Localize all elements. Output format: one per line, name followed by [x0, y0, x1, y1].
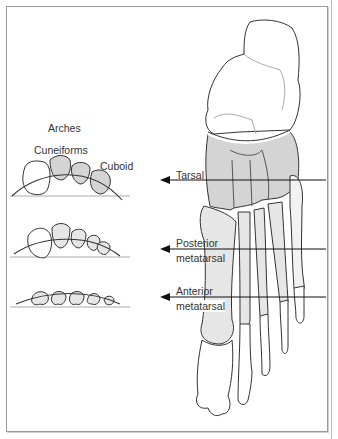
calcaneus-talus [206, 20, 300, 134]
tarsal-bones [206, 130, 299, 210]
posterior-metatarsal-label-line1: Posterior [176, 237, 218, 249]
anterior-metatarsal-arch [10, 292, 130, 308]
arrow-left-icon [160, 293, 170, 301]
arrow-left-icon [160, 245, 170, 253]
posterior-metatarsal-label-line2: metatarsal [176, 252, 225, 264]
cuboid-label: Cuboid [100, 160, 133, 172]
anterior-metatarsal-label-line2: metatarsal [176, 300, 225, 312]
anterior-metatarsal-label-line1: Anterior [176, 285, 213, 297]
arrow-heads [160, 176, 170, 301]
foot-skeleton-diagram [0, 0, 338, 439]
arches-heading: Arches [48, 122, 81, 134]
posterior-metatarsal-arch [10, 224, 130, 259]
cuneiforms-label: Cuneiforms [34, 144, 88, 156]
arrow-left-icon [160, 176, 170, 184]
tarsal-label: Tarsal [176, 169, 204, 181]
